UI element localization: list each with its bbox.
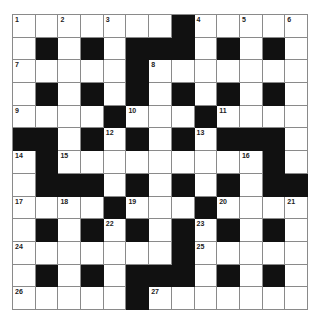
crossword-cell[interactable] bbox=[36, 60, 59, 83]
crossword-cell[interactable] bbox=[13, 265, 36, 288]
crossword-cell[interactable] bbox=[104, 265, 127, 288]
crossword-cell[interactable] bbox=[81, 242, 104, 265]
crossword-cell[interactable] bbox=[285, 106, 308, 129]
crossword-cell[interactable] bbox=[81, 151, 104, 174]
crossword-cell[interactable] bbox=[36, 106, 59, 129]
crossword-cell[interactable]: 19 bbox=[126, 197, 149, 220]
crossword-cell[interactable]: 11 bbox=[217, 106, 240, 129]
crossword-cell[interactable]: 25 bbox=[195, 242, 218, 265]
crossword-cell[interactable] bbox=[240, 219, 263, 242]
crossword-cell[interactable]: 2 bbox=[58, 15, 81, 38]
crossword-cell[interactable] bbox=[285, 242, 308, 265]
crossword-cell[interactable] bbox=[13, 83, 36, 106]
crossword-cell[interactable] bbox=[172, 197, 195, 220]
crossword-cell[interactable]: 17 bbox=[13, 197, 36, 220]
crossword-cell[interactable] bbox=[172, 106, 195, 129]
crossword-cell[interactable]: 24 bbox=[13, 242, 36, 265]
crossword-cell[interactable] bbox=[240, 287, 263, 310]
crossword-cell[interactable] bbox=[58, 38, 81, 61]
crossword-cell[interactable] bbox=[104, 83, 127, 106]
crossword-cell[interactable]: 8 bbox=[149, 60, 172, 83]
crossword-cell[interactable] bbox=[240, 242, 263, 265]
crossword-cell[interactable] bbox=[13, 38, 36, 61]
crossword-cell[interactable]: 26 bbox=[13, 287, 36, 310]
crossword-cell[interactable] bbox=[195, 38, 218, 61]
crossword-cell[interactable] bbox=[149, 174, 172, 197]
crossword-cell[interactable] bbox=[285, 128, 308, 151]
crossword-cell[interactable]: 23 bbox=[195, 219, 218, 242]
crossword-cell[interactable] bbox=[240, 38, 263, 61]
crossword-cell[interactable] bbox=[263, 287, 286, 310]
crossword-cell[interactable] bbox=[149, 83, 172, 106]
crossword-cell[interactable]: 22 bbox=[104, 219, 127, 242]
crossword-cell[interactable] bbox=[149, 197, 172, 220]
crossword-cell[interactable]: 13 bbox=[195, 128, 218, 151]
crossword-cell[interactable] bbox=[240, 197, 263, 220]
crossword-cell[interactable] bbox=[240, 60, 263, 83]
crossword-cell[interactable] bbox=[172, 287, 195, 310]
crossword-cell[interactable] bbox=[149, 106, 172, 129]
crossword-cell[interactable] bbox=[240, 265, 263, 288]
crossword-cell[interactable] bbox=[172, 60, 195, 83]
crossword-cell[interactable] bbox=[58, 83, 81, 106]
crossword-cell[interactable] bbox=[81, 287, 104, 310]
crossword-cell[interactable] bbox=[195, 174, 218, 197]
crossword-cell[interactable] bbox=[195, 287, 218, 310]
crossword-cell[interactable]: 1 bbox=[13, 15, 36, 38]
crossword-cell[interactable] bbox=[58, 287, 81, 310]
crossword-cell[interactable] bbox=[240, 106, 263, 129]
crossword-cell[interactable]: 15 bbox=[58, 151, 81, 174]
crossword-cell[interactable] bbox=[81, 15, 104, 38]
crossword-cell[interactable] bbox=[58, 60, 81, 83]
crossword-cell[interactable] bbox=[285, 287, 308, 310]
crossword-cell[interactable] bbox=[217, 242, 240, 265]
crossword-cell[interactable]: 16 bbox=[240, 151, 263, 174]
crossword-cell[interactable]: 3 bbox=[104, 15, 127, 38]
crossword-cell[interactable]: 4 bbox=[195, 15, 218, 38]
crossword-cell[interactable] bbox=[285, 265, 308, 288]
crossword-cell[interactable] bbox=[13, 174, 36, 197]
crossword-cell[interactable] bbox=[149, 242, 172, 265]
crossword-cell[interactable] bbox=[58, 106, 81, 129]
crossword-cell[interactable] bbox=[104, 287, 127, 310]
crossword-cell[interactable] bbox=[36, 242, 59, 265]
crossword-cell[interactable] bbox=[149, 15, 172, 38]
crossword-cell[interactable] bbox=[217, 60, 240, 83]
crossword-cell[interactable]: 20 bbox=[217, 197, 240, 220]
crossword-cell[interactable] bbox=[195, 83, 218, 106]
crossword-cell[interactable] bbox=[58, 128, 81, 151]
crossword-cell[interactable] bbox=[36, 15, 59, 38]
crossword-cell[interactable] bbox=[149, 219, 172, 242]
crossword-cell[interactable]: 14 bbox=[13, 151, 36, 174]
crossword-cell[interactable]: 18 bbox=[58, 197, 81, 220]
crossword-cell[interactable]: 27 bbox=[149, 287, 172, 310]
crossword-cell[interactable] bbox=[217, 15, 240, 38]
crossword-cell[interactable] bbox=[263, 242, 286, 265]
crossword-cell[interactable]: 6 bbox=[285, 15, 308, 38]
crossword-cell[interactable] bbox=[172, 151, 195, 174]
crossword-cell[interactable] bbox=[104, 151, 127, 174]
crossword-cell[interactable] bbox=[36, 197, 59, 220]
crossword-cell[interactable] bbox=[104, 38, 127, 61]
crossword-cell[interactable]: 9 bbox=[13, 106, 36, 129]
crossword-cell[interactable] bbox=[285, 151, 308, 174]
crossword-cell[interactable] bbox=[149, 128, 172, 151]
crossword-cell[interactable] bbox=[58, 242, 81, 265]
crossword-cell[interactable] bbox=[58, 265, 81, 288]
crossword-cell[interactable] bbox=[195, 265, 218, 288]
crossword-cell[interactable] bbox=[263, 106, 286, 129]
crossword-cell[interactable] bbox=[104, 242, 127, 265]
crossword-cell[interactable] bbox=[104, 174, 127, 197]
crossword-cell[interactable] bbox=[285, 38, 308, 61]
crossword-cell[interactable] bbox=[149, 151, 172, 174]
crossword-cell[interactable] bbox=[240, 174, 263, 197]
crossword-cell[interactable] bbox=[126, 15, 149, 38]
crossword-cell[interactable] bbox=[36, 287, 59, 310]
crossword-cell[interactable] bbox=[104, 60, 127, 83]
crossword-cell[interactable]: 21 bbox=[285, 197, 308, 220]
crossword-cell[interactable]: 5 bbox=[240, 15, 263, 38]
crossword-cell[interactable] bbox=[285, 83, 308, 106]
crossword-cell[interactable] bbox=[285, 60, 308, 83]
crossword-cell[interactable] bbox=[285, 219, 308, 242]
crossword-cell[interactable] bbox=[13, 219, 36, 242]
